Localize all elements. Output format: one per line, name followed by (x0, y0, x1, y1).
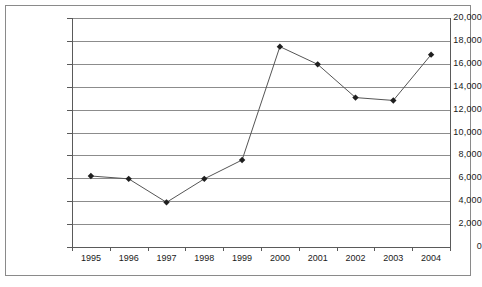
data-point-marker (201, 176, 207, 182)
data-point-marker (239, 157, 245, 163)
line-chart: 02,0004,0006,0008,00010,00012,00014,0001… (0, 0, 482, 287)
data-point-marker (277, 43, 283, 49)
data-series-layer (0, 0, 482, 287)
series-line (91, 47, 431, 203)
data-point-marker (126, 176, 132, 182)
data-point-marker (163, 199, 169, 205)
series-markers (88, 43, 435, 205)
data-point-marker (88, 173, 94, 179)
